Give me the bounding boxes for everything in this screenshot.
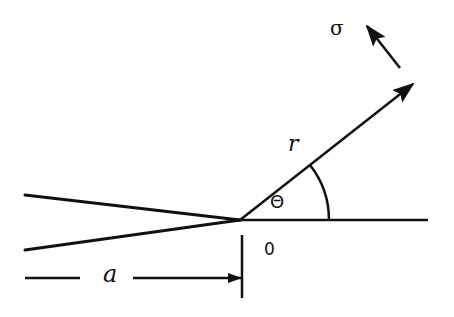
origin-label: 0	[264, 241, 275, 258]
upper-crack-face	[25, 195, 240, 220]
radius-label: r	[288, 133, 299, 155]
angle-label: Θ	[270, 193, 284, 211]
lower-crack-face	[25, 220, 240, 250]
crack-length-label: a	[103, 262, 117, 286]
angle-arc	[310, 165, 329, 220]
crack-tip-diagram	[0, 0, 454, 317]
stress-arrow	[367, 26, 400, 68]
stress-label: σ	[330, 18, 344, 38]
